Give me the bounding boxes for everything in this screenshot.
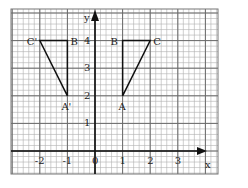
vertex-label-b: B: [111, 36, 118, 47]
coordinate-grid-diagram: xy-2-101231234ABCA'BC': [0, 0, 248, 188]
vertex-label-c-prime: C': [27, 36, 37, 47]
x-tick-label: -1: [62, 155, 72, 166]
y-axis-arrow-icon: [91, 10, 99, 21]
x-tick-label: -2: [35, 155, 45, 166]
x-axis-label: x: [205, 159, 211, 170]
vertex-label-c: C: [153, 36, 161, 47]
grid-border: [11, 9, 218, 174]
y-tick-label: 4: [84, 35, 90, 46]
x-tick-label: 3: [175, 155, 181, 166]
y-tick-label: 1: [84, 117, 90, 128]
y-axis-label: y: [83, 12, 90, 23]
vertex-label-a-prime: A': [60, 101, 71, 112]
x-tick-label: 0: [92, 155, 98, 166]
y-tick-label: 2: [84, 90, 90, 101]
y-tick-label: 3: [84, 62, 90, 73]
vertex-label-a: A: [118, 101, 127, 112]
x-tick-label: 2: [147, 155, 153, 166]
x-tick-label: 1: [120, 155, 126, 166]
vertex-label-b-prime: B: [70, 36, 77, 47]
